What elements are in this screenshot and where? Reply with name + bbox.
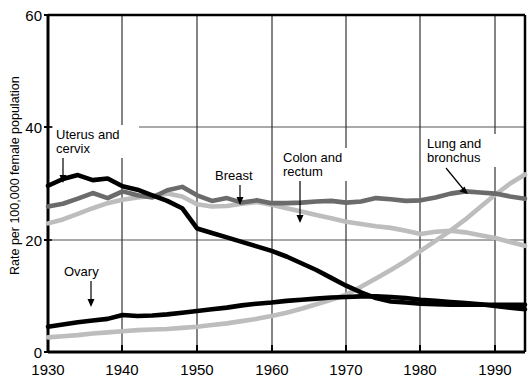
x-tick-label-1930: 1930 <box>31 361 64 378</box>
x-tick-label-1970: 1970 <box>329 361 362 378</box>
y-tick-label-60: 60 <box>25 7 42 24</box>
line-chart: Rate per 100,000 female population 60 40… <box>0 0 532 385</box>
annotation-breast-label: Breast <box>215 168 253 183</box>
y-tick-label-40: 40 <box>25 119 42 136</box>
x-tick-label-1940: 1940 <box>105 361 138 378</box>
data-series-layer <box>48 175 525 338</box>
annotation-ovary-arrowhead <box>88 299 95 307</box>
x-tick-label-1960: 1960 <box>255 361 288 378</box>
chart-container: Rate per 100,000 female population 60 40… <box>0 0 532 385</box>
annotation-colon-line2: rectum <box>283 164 323 179</box>
annotation-ovary: Ovary <box>62 262 114 307</box>
annotation-uterus-line2: cervix <box>56 141 90 156</box>
series-line-breast <box>48 187 525 207</box>
annotation-ovary-label: Ovary <box>64 264 99 279</box>
x-tick-label-1980: 1980 <box>403 361 436 378</box>
annotation-lung-line2: bronchus <box>427 150 481 165</box>
annotation-uterus-and-cervix: Uterus and cervix <box>53 125 139 183</box>
annotation-uterus-line1: Uterus and <box>56 127 120 142</box>
x-tick-label-1950: 1950 <box>180 361 213 378</box>
y-tick-label-0: 0 <box>34 344 42 361</box>
annotation-lung-arrow <box>446 168 464 190</box>
annotation-colon-line1: Colon and <box>283 150 342 165</box>
annotation-colon-arrowhead <box>297 215 304 223</box>
y-axis-title: Rate per 100,000 female population <box>8 76 22 275</box>
annotation-lung-line1: Lung and <box>427 136 481 151</box>
x-tick-label-1990: 1990 <box>478 361 511 378</box>
y-tick-label-20: 20 <box>25 232 42 249</box>
